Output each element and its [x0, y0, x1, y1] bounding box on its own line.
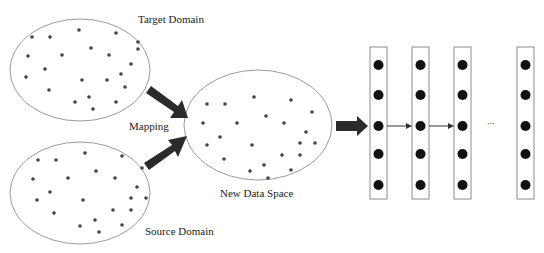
layer-3: [454, 47, 471, 199]
diagram-canvas: [0, 0, 544, 253]
layers-ellipsis: ...: [487, 115, 495, 126]
layer-1: [370, 47, 387, 199]
space-to-network-arrow: [336, 116, 368, 136]
source-domain-ellipse: [10, 142, 150, 244]
new-data-space-ellipse: [184, 70, 332, 180]
target-domain-label: Target Domain: [138, 13, 204, 25]
mapping-arrow-top: [146, 86, 188, 118]
target-domain-ellipse: [10, 19, 150, 121]
source-domain-label: Source Domain: [145, 225, 214, 237]
layer-n: [517, 47, 534, 199]
domain-mapping-diagram: Target Domain Mapping New Data Space Sou…: [0, 0, 544, 253]
mapping-label: Mapping: [129, 120, 169, 132]
mapping-arrow-bottom: [144, 136, 187, 170]
new-data-space-label: New Data Space: [220, 187, 293, 199]
layer-2: [412, 47, 429, 199]
